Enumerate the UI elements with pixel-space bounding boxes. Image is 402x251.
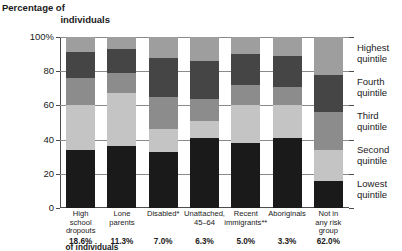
y-axis-tick-right (349, 37, 354, 38)
bar-segment-highest-quintile[interactable] (273, 37, 302, 56)
bar-segment-second-quintile[interactable] (231, 105, 260, 143)
chart-root: Percentage of individuals 020406080100% … (0, 0, 402, 251)
bar-segment-highest-quintile[interactable] (190, 37, 219, 61)
legend-label-line2: quintile (357, 155, 387, 166)
category-name-line: group (302, 227, 354, 236)
stacked-bar[interactable] (231, 37, 260, 208)
legend-item-fourth[interactable]: Fourthquintile (357, 77, 402, 98)
legend-label-line2: quintile (357, 189, 387, 200)
bar-segment-lowest-quintile[interactable] (107, 146, 136, 208)
bar-segment-highest-quintile[interactable] (149, 37, 178, 58)
category-percentage: 62.0% (302, 238, 354, 247)
legend-label-line2: quintile (357, 87, 387, 98)
legend-label-line1: Second (357, 144, 389, 155)
bar-segment-fourth-quintile[interactable] (149, 58, 178, 97)
bar-segment-third-quintile[interactable] (314, 112, 343, 150)
bar-segment-highest-quintile[interactable] (66, 37, 95, 52)
legend-label-line2: quintile (357, 53, 387, 64)
legend-label-line1: Fourth (357, 76, 384, 87)
bar-segment-third-quintile[interactable] (66, 78, 95, 105)
bar-segment-fourth-quintile[interactable] (273, 56, 302, 87)
y-axis-title-line1: Percentage of (2, 2, 110, 14)
bar-segment-third-quintile[interactable] (149, 97, 178, 129)
y-axis-tick-right (349, 140, 354, 141)
bar-segment-lowest-quintile[interactable] (190, 138, 219, 208)
bar-segment-lowest-quintile[interactable] (314, 181, 343, 208)
bar-segment-third-quintile[interactable] (273, 87, 302, 106)
bar-segment-third-quintile[interactable] (231, 85, 260, 106)
bar-segment-third-quintile[interactable] (190, 99, 219, 121)
y-axis-tick-right (349, 105, 354, 106)
stacked-bar[interactable] (66, 37, 95, 208)
legend-label-line1: Lowest (357, 178, 387, 189)
y-axis-tick-right (349, 208, 354, 209)
bar-segment-lowest-quintile[interactable] (273, 138, 302, 208)
bar-segment-second-quintile[interactable] (190, 121, 219, 138)
bar-segment-fourth-quintile[interactable] (190, 61, 219, 99)
y-axis-tick-right (349, 71, 354, 72)
stacked-bar[interactable] (273, 37, 302, 208)
category-label: Not inany riskgroup62.0% (302, 210, 354, 246)
bar-segment-fourth-quintile[interactable] (66, 52, 95, 78)
y-axis-label: 60 (8, 99, 54, 110)
bar-segment-fourth-quintile[interactable] (231, 54, 260, 85)
y-axis-tick-right (349, 174, 354, 175)
bar-segment-second-quintile[interactable] (66, 105, 95, 149)
y-axis-label: 40 (8, 134, 54, 145)
y-axis-label: 80 (8, 65, 54, 76)
y-axis-label: 0 (8, 202, 54, 213)
legend-label-line2: quintile (357, 121, 387, 132)
bar-segment-second-quintile[interactable] (149, 129, 178, 151)
plot-area (60, 37, 349, 208)
legend-label-line1: Third (357, 110, 379, 121)
bar-segment-second-quintile[interactable] (107, 93, 136, 146)
y-axis-tick (56, 208, 60, 209)
category-labels: of individuals Highschooldropouts18.6%Lo… (60, 210, 349, 251)
stacked-bar[interactable] (190, 37, 219, 208)
bar-segment-highest-quintile[interactable] (107, 37, 136, 49)
legend-label-line1: Highest (357, 42, 389, 53)
legend-item-highest[interactable]: Highestquintile (357, 43, 402, 64)
legend-item-lowest[interactable]: Lowestquintile (357, 179, 402, 200)
legend-item-third[interactable]: Thirdquintile (357, 111, 402, 132)
stacked-bar[interactable] (314, 37, 343, 208)
y-axis-label: 20 (8, 168, 54, 179)
bar-segment-second-quintile[interactable] (314, 150, 343, 181)
bar-segment-fourth-quintile[interactable] (314, 75, 343, 113)
bar-segment-lowest-quintile[interactable] (231, 143, 260, 208)
stacked-bar[interactable] (149, 37, 178, 208)
stacked-bar[interactable] (107, 37, 136, 208)
bar-segment-highest-quintile[interactable] (231, 37, 260, 54)
y-axis-title-line2: individuals (2, 14, 110, 26)
y-axis-label: 100% (8, 31, 54, 42)
bar-segment-fourth-quintile[interactable] (107, 49, 136, 73)
bar-segment-third-quintile[interactable] (107, 73, 136, 94)
bar-segment-lowest-quintile[interactable] (66, 150, 95, 208)
bar-segment-second-quintile[interactable] (273, 105, 302, 137)
bar-segment-highest-quintile[interactable] (314, 37, 343, 75)
y-axis-title: Percentage of individuals (2, 2, 110, 25)
bar-segment-lowest-quintile[interactable] (149, 152, 178, 208)
legend-item-second[interactable]: Secondquintile (357, 145, 402, 166)
bar-group (60, 37, 349, 208)
